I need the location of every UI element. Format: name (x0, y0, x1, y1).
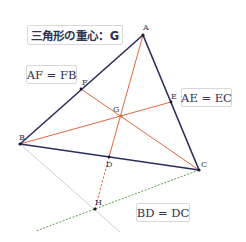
median-ad (109, 35, 143, 157)
label-f: F (82, 78, 88, 87)
point-e (170, 101, 173, 104)
label-a: A (142, 23, 149, 32)
point-g (119, 114, 122, 117)
label-c: C (201, 160, 207, 169)
label-b: B (19, 133, 25, 142)
af-equals-fb-label: AF = FB (26, 65, 77, 84)
label-d: D (106, 160, 112, 169)
centroid-diagram: A B C D E F G H 三角形の重心：G AF = FB AE = EC… (0, 0, 246, 242)
ae-equals-ec-label: AE = EC (181, 88, 232, 107)
label-e: E (171, 92, 177, 101)
point-a (141, 33, 144, 36)
point-b (18, 142, 21, 145)
point-d (108, 156, 111, 159)
point-f (80, 88, 83, 91)
point-h (93, 207, 96, 210)
bd-equals-dc-label: BD = DC (136, 203, 190, 222)
label-g: G (113, 105, 119, 114)
label-h: H (95, 198, 102, 207)
centroid-title-label: 三角形の重心：G (27, 25, 123, 45)
